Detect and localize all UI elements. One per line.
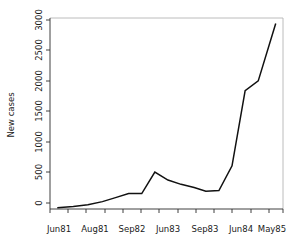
x-tick-label-jun81: Jun81: [46, 224, 71, 234]
y-tick-label-0: 0: [34, 200, 44, 205]
x-tick-label-aug81: Aug81: [81, 224, 108, 234]
x-tick-label-sep82: Sep82: [119, 224, 146, 234]
y-tick-label-500: 500: [34, 164, 44, 180]
y-tick-label-1000: 1000: [34, 131, 44, 153]
y-tick-label-1500: 1500: [34, 100, 44, 122]
y-tick-label-2500: 2500: [34, 39, 44, 61]
x-tick-label-may85: May85: [258, 224, 286, 234]
y-tick-label-2000: 2000: [34, 70, 44, 92]
y-tick-label-3000: 3000: [34, 9, 44, 31]
x-tick-label-jun83: Jun83: [155, 224, 180, 234]
x-tick-label-jun84: Jun84: [228, 224, 253, 234]
x-axis-tick-labels: Jun81 Aug81 Sep82 Jun83 Sep83 Jun84 May8…: [46, 224, 286, 234]
y-axis-title: New cases: [6, 92, 16, 138]
x-tick-label-sep83: Sep83: [192, 224, 219, 234]
chart-figure: 0 500 1000 1500 2000 2500 3000 New cases: [0, 0, 290, 246]
line-chart-canvas: 0 500 1000 1500 2000 2500 3000 New cases: [0, 0, 290, 246]
